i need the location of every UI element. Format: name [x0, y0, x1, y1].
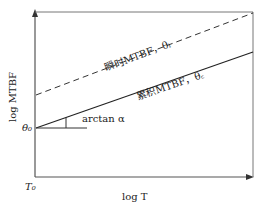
origin-y-label: θ₀ — [22, 122, 32, 133]
angle-label: arctan α — [82, 113, 125, 124]
y-axis-arrow-icon — [32, 9, 38, 17]
growth-diagram — [0, 0, 264, 212]
y-axis-label: log MTBF — [7, 72, 18, 122]
origin-x-label: T₀ — [25, 181, 36, 192]
x-axis-label: log T — [122, 191, 147, 202]
